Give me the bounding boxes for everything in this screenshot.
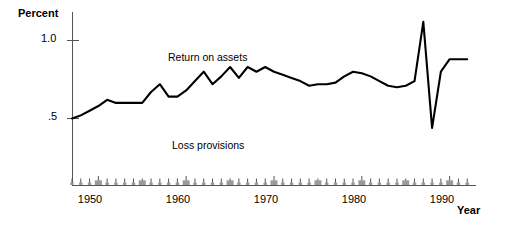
loss-provision-bar-1954	[132, 183, 135, 186]
loss-provision-bar-1980	[358, 180, 365, 185]
loss-provision-bar-1951	[105, 183, 108, 186]
loss-provision-bar-1963	[211, 183, 214, 186]
loss-provision-bar-1966	[237, 183, 240, 186]
loss-provision-bar-1967	[246, 183, 249, 186]
loss-provision-bar-1973	[299, 183, 302, 186]
loss-provision-bar-1976	[325, 183, 328, 186]
loss-provision-bar-1974	[307, 183, 310, 186]
loss-provision-bar-1971	[281, 183, 284, 186]
loss-provision-bar-1982	[378, 183, 381, 186]
loss-provision-bar-1984	[395, 183, 398, 186]
loss-provisions-bars	[70, 180, 469, 185]
loss-provision-bar-1983	[386, 183, 389, 186]
x-tick-label-1950: 1950	[78, 194, 102, 205]
loss-provision-bar-1948	[79, 183, 82, 186]
loss-provision-bar-1950	[95, 180, 102, 185]
loss-provision-bar-1955	[139, 180, 146, 185]
loss-provision-bar-1970	[271, 180, 278, 185]
loss-provision-bar-1964	[220, 183, 223, 186]
loss-provision-bar-1985	[402, 180, 409, 185]
y-tick-label-1: 1.0	[41, 33, 56, 44]
loss-provision-bar-1961	[193, 183, 196, 186]
loss-provision-bar-1949	[88, 183, 91, 186]
chart-container: Percent 1.0 .5 Return on assets Loss pro…	[0, 0, 506, 225]
loss-provision-bar-1987	[422, 183, 425, 186]
x-tick-label-1990: 1990	[430, 194, 454, 205]
loss-provision-bar-1986	[413, 183, 416, 186]
loss-provision-bar-1965	[227, 180, 234, 185]
loss-provision-bar-1956	[149, 183, 152, 186]
y-axis-title: Percent	[18, 8, 58, 19]
return-on-assets-line	[72, 22, 467, 128]
loss-provision-bar-1977	[334, 183, 337, 186]
loss-provision-bar-1968	[255, 183, 258, 186]
loss-provision-bar-1979	[351, 183, 354, 186]
series-label-loss-provisions: Loss provisions	[172, 140, 244, 151]
loss-provision-bar-1990	[446, 180, 453, 185]
loss-provision-bar-1960	[183, 180, 190, 185]
loss-provision-bar-1969	[264, 183, 267, 186]
y-tick-label-0-5: .5	[48, 111, 57, 122]
loss-provision-bar-1952	[114, 183, 117, 186]
x-axis-title: Year	[457, 205, 480, 216]
series-label-return-on-assets: Return on assets	[168, 52, 247, 63]
loss-provision-bar-1989	[439, 183, 442, 186]
x-tick-label-1970: 1970	[254, 194, 278, 205]
loss-provision-bar-1958	[167, 183, 170, 186]
chart-plot-area	[0, 0, 506, 225]
x-tick-label-1960: 1960	[166, 194, 190, 205]
loss-provision-bar-1978	[343, 183, 346, 186]
loss-provision-bar-1959	[176, 183, 179, 186]
loss-provision-bar-1953	[123, 183, 126, 186]
loss-provision-bar-1975	[314, 180, 321, 185]
loss-provision-bar-1957	[158, 183, 161, 186]
loss-provision-bar-1947	[70, 183, 73, 186]
loss-provision-bar-1992	[466, 183, 469, 186]
loss-provision-bar-1972	[290, 183, 293, 186]
loss-provision-bar-1962	[202, 183, 205, 186]
loss-provision-bar-1988	[430, 183, 433, 186]
loss-provision-bar-1981	[369, 183, 372, 186]
loss-provision-bar-1991	[457, 183, 460, 186]
x-tick-label-1980: 1980	[342, 194, 366, 205]
